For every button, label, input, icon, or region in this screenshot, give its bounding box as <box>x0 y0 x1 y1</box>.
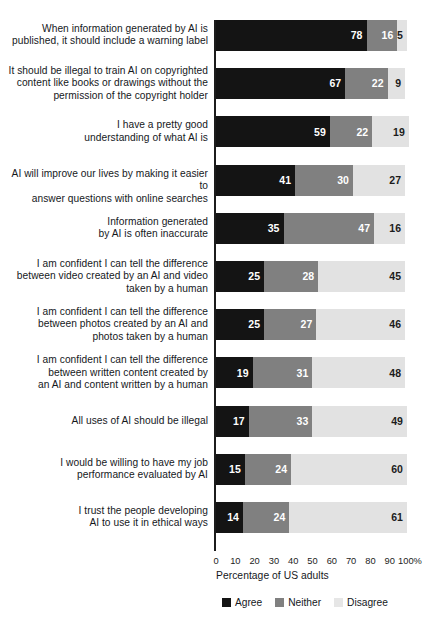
x-tick-label: 100% <box>398 556 422 566</box>
bar-value-label: 27 <box>300 319 316 330</box>
category-label: I trust the people developingAI to use i… <box>6 505 208 530</box>
bar-segment-neither: 24 <box>245 454 291 485</box>
category-label: When information generated by AI ispubli… <box>6 23 208 48</box>
bar-value-label: 46 <box>389 319 405 330</box>
stacked-bar-chart: 7816567229592219413027354716252845252746… <box>0 0 426 627</box>
bar-row: 152460 <box>216 454 409 485</box>
plot-area: 7816567229592219413027354716252845252746… <box>216 20 409 550</box>
x-tick-label: 20 <box>249 556 259 566</box>
bar-segment-disagree: 46 <box>316 309 405 340</box>
x-axis-label: Percentage of US adults <box>216 570 329 581</box>
bar-value-label: 19 <box>393 127 409 138</box>
bar-value-label: 25 <box>248 271 264 282</box>
bar-value-label: 28 <box>302 271 318 282</box>
category-label-line: It should be illegal to train AI on copy… <box>6 65 208 78</box>
category-label-line: an AI and content written by a human <box>6 379 208 392</box>
legend-item-disagree[interactable]: Disagree <box>334 597 388 608</box>
category-label: I am confident I can tell the difference… <box>6 354 208 392</box>
bar-row: 592219 <box>216 116 409 147</box>
category-label-line: content like books or drawings without t… <box>6 77 208 90</box>
bar-row: 78165 <box>216 20 409 51</box>
bar-value-label: 47 <box>358 223 374 234</box>
category-label-line: All uses of AI should be illegal <box>6 415 208 428</box>
category-label: All uses of AI should be illegal <box>6 415 208 428</box>
bar-value-label: 67 <box>329 78 345 89</box>
bar-value-label: 59 <box>314 127 330 138</box>
bar-value-label: 19 <box>237 368 253 379</box>
bar-value-label: 24 <box>275 464 291 475</box>
legend-label: Agree <box>235 597 262 608</box>
bar-segment-agree: 35 <box>216 213 284 244</box>
bar-segment-disagree: 27 <box>353 165 405 196</box>
category-label-line: photos taken by a human <box>6 331 208 344</box>
category-label-line: between video created by an AI and video <box>6 270 208 283</box>
legend-label: Neither <box>288 597 321 608</box>
bar-segment-agree: 59 <box>216 116 330 147</box>
bar-value-label: 25 <box>248 319 264 330</box>
x-tick-label: 50 <box>307 556 317 566</box>
category-label-line: performance evaluated by AI <box>6 469 208 482</box>
legend-label: Disagree <box>347 597 388 608</box>
bar-segment-neither: 33 <box>249 406 313 437</box>
legend-item-neither[interactable]: Neither <box>275 597 321 608</box>
bar-segment-agree: 15 <box>216 454 245 485</box>
bar-segment-neither: 47 <box>284 213 375 244</box>
category-label-line: I am confident I can tell the difference <box>6 306 208 319</box>
legend-item-agree[interactable]: Agree <box>222 597 262 608</box>
bar-segment-disagree: 45 <box>318 261 405 292</box>
category-label-line: taken by a human <box>6 283 208 296</box>
bar-value-label: 45 <box>389 271 405 282</box>
category-label: It should be illegal to train AI on copy… <box>6 65 208 103</box>
legend-swatch-icon <box>275 598 284 607</box>
bar-value-label: 9 <box>395 78 405 89</box>
bar-segment-neither: 22 <box>345 68 387 99</box>
chart-legend: AgreeNeitherDisagree <box>222 597 388 608</box>
bar-value-label: 14 <box>227 512 243 523</box>
bar-value-label: 35 <box>268 223 284 234</box>
category-label: I would be willing to have my jobperform… <box>6 457 208 482</box>
category-label-line: AI will improve our lives by making it e… <box>6 168 208 193</box>
bar-segment-disagree: 61 <box>289 502 407 533</box>
x-axis-ticks: 0102030405060708090100% <box>216 556 416 570</box>
bar-row: 413027 <box>216 165 409 196</box>
bar-segment-neither: 30 <box>295 165 353 196</box>
category-label: AI will improve our lives by making it e… <box>6 168 208 206</box>
bar-value-label: 49 <box>391 416 407 427</box>
bar-row: 142461 <box>216 502 409 533</box>
legend-swatch-icon <box>222 598 231 607</box>
bar-segment-neither: 31 <box>253 357 313 388</box>
bar-segment-disagree: 19 <box>372 116 409 147</box>
bar-segment-agree: 78 <box>216 20 367 51</box>
bar-segment-disagree: 9 <box>388 68 405 99</box>
bar-value-label: 16 <box>389 223 405 234</box>
bar-segment-disagree: 60 <box>291 454 407 485</box>
category-label-line: understanding of what AI is <box>6 132 208 145</box>
x-tick-label: 0 <box>213 556 218 566</box>
x-tick-label: 40 <box>288 556 298 566</box>
bar-segment-agree: 14 <box>216 502 243 533</box>
bar-segment-disagree: 49 <box>312 406 407 437</box>
x-tick-label: 70 <box>346 556 356 566</box>
bar-row: 173349 <box>216 406 409 437</box>
bar-segment-disagree: 16 <box>374 213 405 244</box>
bar-value-label: 60 <box>391 464 407 475</box>
bar-segment-agree: 25 <box>216 309 264 340</box>
x-tick-label: 80 <box>365 556 375 566</box>
category-label-line: answer questions with online searches <box>6 193 208 206</box>
category-label-line: published, it should include a warning l… <box>6 35 208 48</box>
bar-segment-neither: 28 <box>264 261 318 292</box>
bar-segment-neither: 16 <box>367 20 398 51</box>
bar-segment-disagree: 5 <box>397 20 407 51</box>
legend-swatch-icon <box>334 598 343 607</box>
x-tick-label: 30 <box>269 556 279 566</box>
category-label-line: permission of the copyright holder <box>6 90 208 103</box>
bar-value-label: 33 <box>297 416 313 427</box>
category-label: Information generatedby AI is often inac… <box>6 216 208 241</box>
category-label: I am confident I can tell the difference… <box>6 258 208 296</box>
bar-row: 193148 <box>216 357 409 388</box>
bar-value-label: 5 <box>397 30 407 41</box>
bar-value-label: 27 <box>389 175 405 186</box>
bar-segment-agree: 67 <box>216 68 345 99</box>
category-label-line: by AI is often inaccurate <box>6 228 208 241</box>
bar-row: 354716 <box>216 213 409 244</box>
